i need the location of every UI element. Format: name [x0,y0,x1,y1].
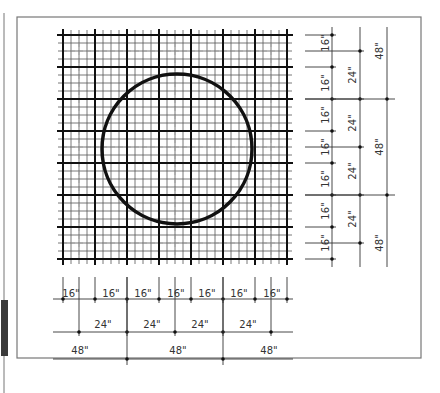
dim-label-48: 48" [260,345,277,356]
dimension-tick [221,357,225,361]
dim-label-24: 24" [143,319,160,330]
dim-label-24: 24" [191,319,208,330]
dim-label-16: 16" [320,170,331,187]
dimension-tick [358,145,362,149]
dimension-tick [173,330,177,334]
dimension-tick [330,225,334,229]
circle-layer [102,74,252,224]
right-dimensions: 16"16"16"16"16"16"16"24"24"24"24"48"48"4… [305,27,395,267]
dim-label-48: 48" [374,42,385,59]
dim-label-16: 16" [320,106,331,123]
circular-feature [102,74,252,224]
dim-label-16: 16" [320,138,331,155]
dim-label-24: 24" [347,66,358,83]
dimension-tick [330,161,334,165]
dimension-tick [93,297,97,301]
dimension-tick [330,257,334,261]
grid [57,29,293,265]
dimension-tick [358,241,362,245]
dimension-tick [330,65,334,69]
dim-label-24: 24" [347,162,358,179]
dim-label-48: 48" [374,138,385,155]
drawing-canvas: 16"16"16"16"16"16"16"24"24"24"24"48"48"4… [0,0,440,393]
dim-label-48: 48" [374,234,385,251]
dim-label-16: 16" [167,288,184,299]
dim-label-16: 16" [134,288,151,299]
dimension-tick [358,49,362,53]
dim-label-24: 24" [347,114,358,131]
dimension-tick [189,297,193,301]
dim-label-16: 16" [62,288,79,299]
dimension-tick [253,297,257,301]
bottom-dimensions: 16"16"16"16"16"16"16"24"24"24"24"48"48"4… [53,277,293,365]
side-marker-bar [1,300,8,356]
dim-label-16: 16" [230,288,247,299]
dimension-tick [385,193,389,197]
dimension-tick [125,357,129,361]
dimension-tick [157,297,161,301]
dim-label-24: 24" [239,319,256,330]
dim-label-16: 16" [320,34,331,51]
dim-label-16: 16" [320,234,331,251]
dim-label-16: 16" [263,288,280,299]
dim-label-16: 16" [198,288,215,299]
dim-label-24: 24" [94,319,111,330]
dim-label-48: 48" [169,345,186,356]
dimension-tick [330,129,334,133]
dim-label-48: 48" [71,345,88,356]
dimension-tick [269,330,273,334]
dim-label-16: 16" [102,288,119,299]
dim-label-16: 16" [320,74,331,91]
dimension-tick [385,97,389,101]
dimension-tick [285,297,289,301]
dim-label-24: 24" [347,210,358,227]
dimension-tick [77,330,81,334]
dim-label-16: 16" [320,202,331,219]
